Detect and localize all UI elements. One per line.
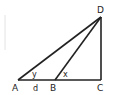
point-label-a: A <box>12 83 19 93</box>
point-label-d: D <box>97 5 104 15</box>
segment-ad <box>18 17 101 80</box>
geometry-diagram: D A B C y x d <box>0 0 114 95</box>
point-label-b: B <box>50 83 56 93</box>
segment-bd <box>55 17 101 80</box>
angle-label-x: x <box>63 70 68 79</box>
length-label-d: d <box>33 84 38 93</box>
point-label-c: C <box>97 83 103 93</box>
angle-label-y: y <box>32 70 37 79</box>
